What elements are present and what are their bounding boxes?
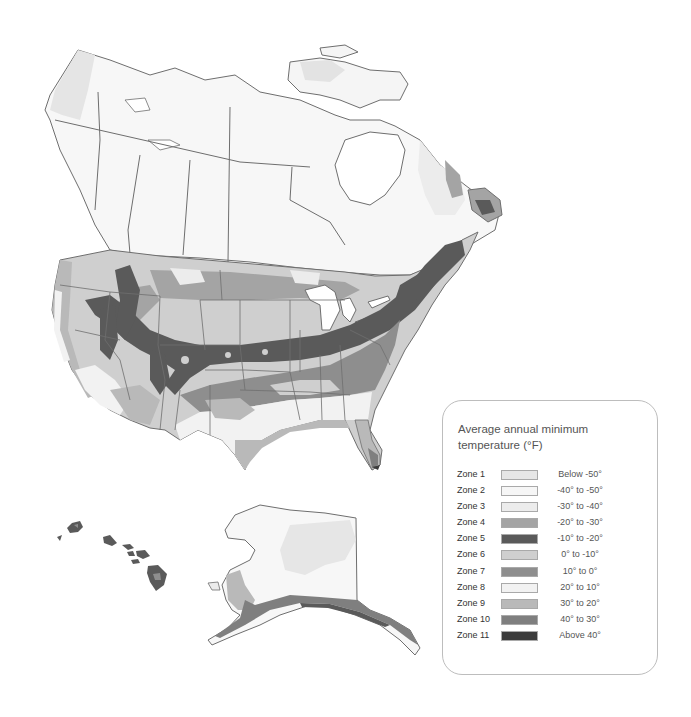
zone-range: -10° to -20°	[549, 533, 611, 543]
zone-swatch	[501, 486, 538, 496]
alaska-inset	[208, 505, 420, 655]
canada-region	[45, 45, 502, 275]
legend-row-zone-10: Zone 10 40° to 30°	[457, 613, 652, 629]
zone-swatch	[501, 534, 538, 544]
zone-swatch	[501, 583, 538, 593]
legend-row-zone-2: Zone 2 -40° to -50°	[457, 484, 652, 500]
legend-row-zone-3: Zone 3 -30° to -40°	[457, 500, 652, 516]
legend-row-zone-4: Zone 4 -20° to -30°	[457, 516, 652, 532]
zone-range: -20° to -30°	[549, 517, 611, 527]
zone-label: Zone 6	[457, 549, 485, 559]
legend-row-zone-11: Zone 11 Above 40°	[457, 629, 652, 645]
zone-label: Zone 11	[457, 630, 489, 640]
legend-row-zone-5: Zone 5 -10° to -20°	[457, 532, 652, 548]
zone-swatch	[501, 470, 538, 480]
zone-range: -30° to -40°	[549, 501, 611, 511]
zone-swatch	[501, 599, 538, 609]
zone-label: Zone 4	[457, 517, 485, 527]
zone-label: Zone 1	[457, 469, 485, 479]
zone-label: Zone 8	[457, 582, 485, 592]
zone-label: Zone 7	[457, 566, 485, 576]
zone-range: Above 40°	[549, 630, 611, 640]
zone-range: 10° to 0°	[549, 566, 611, 576]
zone-swatch	[501, 550, 538, 560]
zone-range: 30° to 20°	[549, 598, 611, 608]
zone-range: 40° to 30°	[549, 614, 611, 624]
zone-label: Zone 10	[457, 614, 490, 624]
zone-range: 20° to 10°	[549, 582, 611, 592]
legend-row-zone-7: Zone 7 10° to 0°	[457, 565, 652, 581]
zone-label: Zone 5	[457, 533, 485, 543]
legend-row-zone-1: Zone 1 Below -50°	[457, 468, 652, 484]
legend-row-zone-9: Zone 9 30° to 20°	[457, 597, 652, 613]
legend-rows: Zone 1 Below -50° Zone 2 -40° to -50° Zo…	[457, 468, 652, 645]
hawaii-inset	[57, 521, 167, 591]
zone-label: Zone 2	[457, 485, 485, 495]
zone-range: -40° to -50°	[549, 485, 611, 495]
zone-swatch	[501, 502, 538, 512]
zone-range: 0° to -10°	[549, 549, 611, 559]
zone-swatch	[501, 567, 538, 577]
zone-label: Zone 9	[457, 598, 485, 608]
zone-range: Below -50°	[549, 469, 611, 479]
legend-row-zone-6: Zone 6 0° to -10°	[457, 548, 652, 564]
zone-label: Zone 3	[457, 501, 485, 511]
legend: Average annual minimum temperature (°F) …	[442, 400, 658, 675]
zone-swatch	[501, 631, 538, 641]
zone-swatch	[501, 518, 538, 528]
legend-title: Average annual minimum temperature (°F)	[458, 421, 648, 453]
legend-row-zone-8: Zone 8 20° to 10°	[457, 581, 652, 597]
zone-swatch	[501, 615, 538, 625]
